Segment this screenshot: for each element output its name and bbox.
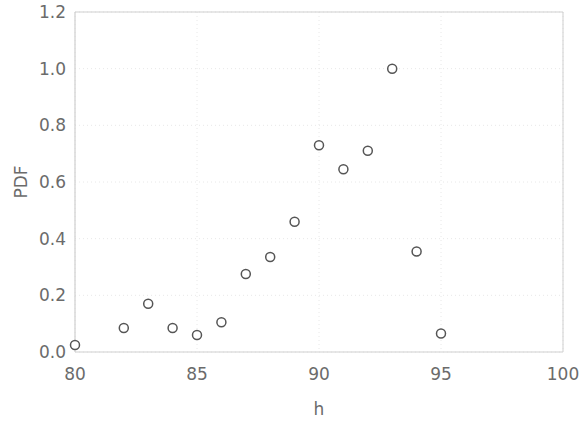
x-tick-label: 85	[186, 364, 208, 384]
y-tick-label: 1.0	[18, 59, 66, 79]
data-point	[168, 323, 177, 332]
data-point-group	[71, 64, 446, 349]
data-point	[217, 318, 226, 327]
x-tick-label: 80	[64, 364, 86, 384]
y-axis-title: PDF	[11, 165, 31, 198]
data-point	[412, 247, 421, 256]
data-point	[363, 146, 372, 155]
y-tick-label: 0.8	[18, 115, 66, 135]
scatter-plot-figure: 0.00.20.40.60.81.01.2 80859095100 h PDF	[0, 0, 580, 429]
y-tick-label: 1.2	[18, 2, 66, 22]
data-point	[315, 141, 324, 150]
data-point	[193, 331, 202, 340]
y-tick-label: 0.2	[18, 285, 66, 305]
data-point	[388, 64, 397, 73]
data-point	[437, 329, 446, 338]
x-axis-title: h	[314, 399, 325, 419]
data-point	[241, 270, 250, 279]
data-point	[339, 165, 348, 174]
data-point	[144, 299, 153, 308]
plot-canvas	[0, 0, 580, 429]
data-point	[266, 253, 275, 262]
data-point	[290, 217, 299, 226]
x-tick-label: 95	[430, 364, 452, 384]
y-tick-label: 0.4	[18, 229, 66, 249]
x-tick-label: 90	[308, 364, 330, 384]
data-point	[71, 340, 80, 349]
y-tick-label: 0.0	[18, 342, 66, 362]
data-point	[119, 323, 128, 332]
x-tick-label: 100	[547, 364, 579, 384]
